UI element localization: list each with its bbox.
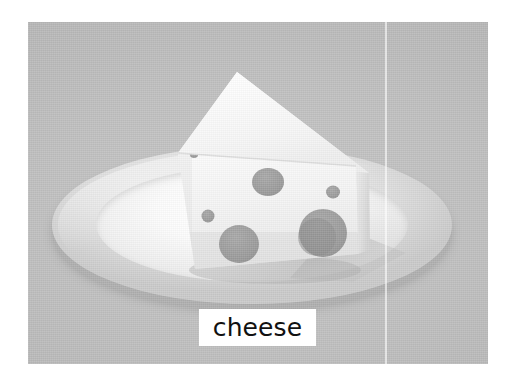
hole-large-right-shadow-icon: [298, 218, 336, 256]
page-root: cheese: [0, 0, 514, 380]
hole-large-lower-left-icon: [219, 225, 259, 263]
cheese-wedge-illustration: [170, 46, 380, 276]
hole-small-right-icon: [326, 186, 340, 199]
cheese-front-left-shading: [170, 146, 192, 276]
label-box: cheese: [199, 309, 316, 346]
hole-small-left-icon: [202, 210, 215, 223]
cheese-side-face: [356, 166, 370, 254]
hole-medium-top-center-icon: [252, 168, 284, 196]
label-text: cheese: [213, 315, 302, 340]
cheese-wedge: [170, 46, 380, 276]
photo-seam-line: [385, 22, 387, 364]
